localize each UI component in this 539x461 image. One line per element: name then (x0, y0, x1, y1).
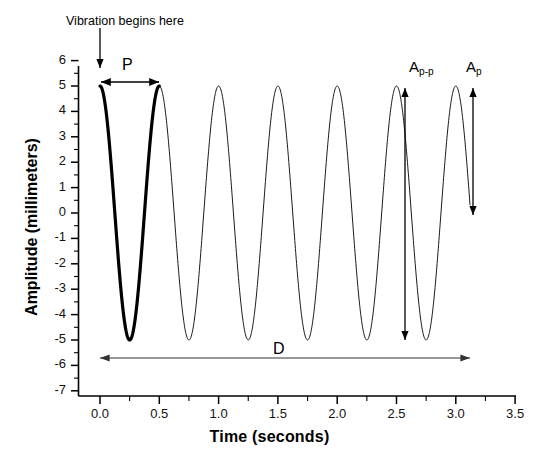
x-tick-label: 2.0 (312, 406, 362, 421)
x-tick-label: 3.0 (431, 406, 481, 421)
annotation-arrows (100, 28, 473, 358)
annotation-ap-subscript: p (476, 66, 482, 77)
y-tick-label: -7 (30, 382, 66, 397)
waveform-thin-segment (159, 86, 470, 340)
vibration-amplitude-chart: 6543210-1-2-3-4-5-6-7 0.00.51.01.52.02.5… (0, 0, 539, 461)
x-tick-label: 3.5 (490, 406, 539, 421)
x-tick-label: 0.5 (134, 406, 184, 421)
y-axis-ticks (71, 61, 79, 391)
x-axis-title: Time (seconds) (0, 428, 539, 446)
annotation-app-subscript: p-p (419, 66, 434, 77)
y-tick-label: 6 (30, 52, 66, 67)
plot-area (0, 0, 539, 461)
annotation-peak-label: Ap (466, 58, 482, 77)
y-axis-title: Amplitude (millimeters) (23, 77, 41, 377)
x-axis-ticks (100, 396, 515, 404)
annotation-peak-to-peak-label: Ap-p (409, 58, 434, 77)
annotation-app-base: A (409, 58, 419, 75)
annotation-ap-base: A (466, 58, 476, 75)
annotation-vibration-begins: Vibration begins here (66, 14, 184, 28)
x-tick-label: 2.5 (372, 406, 422, 421)
x-tick-label: 1.5 (253, 406, 303, 421)
x-tick-label: 1.0 (194, 406, 244, 421)
x-tick-label: 0.0 (75, 406, 125, 421)
waveform (100, 86, 470, 340)
annotation-duration-label: D (273, 340, 285, 358)
waveform-bold-segment (100, 86, 159, 340)
annotation-period-label: P (122, 56, 133, 74)
